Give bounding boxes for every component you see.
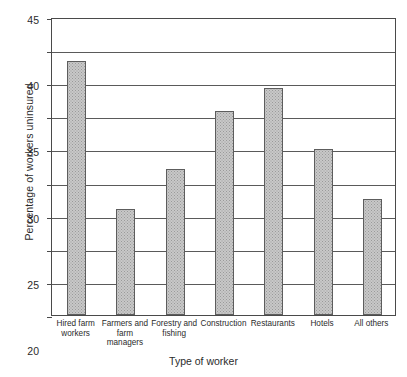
bars-group (52, 19, 395, 315)
bar-chart: Percentage of workers uninsured 45403530… (0, 0, 407, 377)
x-axis-category-label-line: farm (100, 329, 149, 339)
y-axis-tick-label: 35 (27, 146, 39, 158)
x-axis-category-label-line: Restaurants (248, 319, 297, 329)
y-axis-tick-label: 25 (27, 279, 39, 291)
x-axis-category-label-line: All others (347, 319, 396, 329)
y-axis-tick-label: 30 (27, 213, 39, 225)
bar (215, 111, 234, 315)
x-axis-category-label: Restaurants (248, 319, 297, 329)
x-axis-category-label: Forestry andfishing (150, 319, 199, 338)
y-axis-tick: 0 (47, 317, 52, 318)
bar (166, 169, 185, 315)
bar (314, 149, 333, 315)
bar (363, 199, 382, 315)
x-axis-category-label: Hotels (297, 319, 346, 329)
plot-area: 454035302520151050 (51, 18, 396, 316)
x-axis-category-label: Construction (199, 319, 248, 329)
bar (116, 209, 135, 315)
x-axis-category-label-line: managers (100, 338, 149, 348)
bar (264, 88, 283, 315)
x-axis-category-label-line: Forestry and (150, 319, 199, 329)
x-axis-category-label-line: Construction (199, 319, 248, 329)
y-axis-title: Percentage of workers uninsured (23, 37, 35, 287)
bar (67, 61, 86, 315)
x-axis-category-label: Hired farmworkers (51, 319, 100, 338)
x-axis-title: Type of worker (0, 355, 407, 367)
x-axis-category-label-line: fishing (150, 329, 199, 339)
x-axis-category-label: Farmers andfarmmanagers (100, 319, 149, 348)
x-axis-category-label-line: Hired farm (51, 319, 100, 329)
x-axis-category-label-line: workers (51, 329, 100, 339)
x-axis-category-label: All others (347, 319, 396, 329)
x-axis-category-label-line: Farmers and (100, 319, 149, 329)
y-axis-tick-label: 45 (27, 14, 39, 26)
x-axis-category-label-line: Hotels (297, 319, 346, 329)
y-axis-tick-label: 40 (27, 80, 39, 92)
